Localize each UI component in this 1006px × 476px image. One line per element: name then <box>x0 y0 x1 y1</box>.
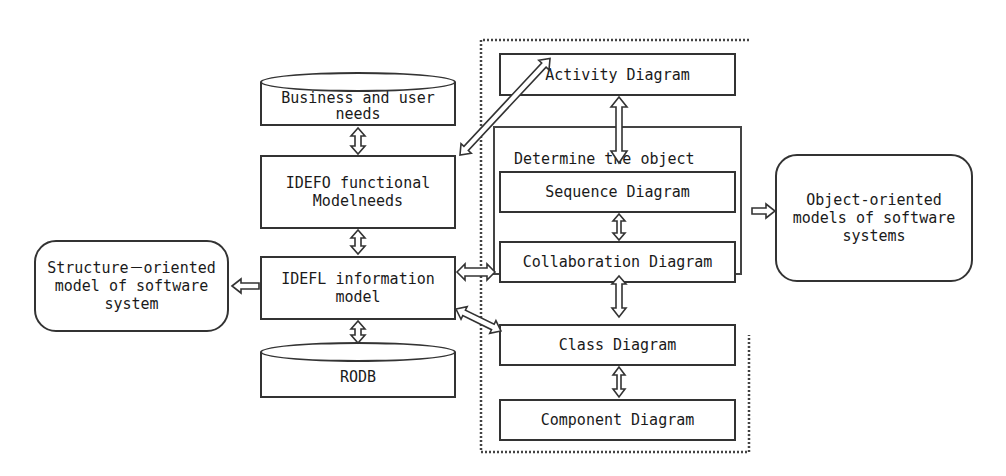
component-diagram: Component Diagram <box>499 399 736 441</box>
object-oriented-model: Object-oriented models of software syste… <box>775 154 973 282</box>
cylinder-top <box>260 342 456 362</box>
double-arrow-icon <box>351 230 365 254</box>
class-diagram: Class Diagram <box>499 324 736 366</box>
double-arrow-icon <box>457 264 495 280</box>
double-arrow-icon <box>613 367 625 397</box>
structure-oriented-model: Structure－oriented model of software sys… <box>34 240 229 332</box>
idef1-information-model: IDEFL information model <box>260 256 456 320</box>
arrow-right-icon <box>752 204 775 218</box>
activity-diagram: Activity Diagram <box>499 53 736 96</box>
double-arrow-icon <box>351 128 365 154</box>
double-arrow-icon <box>453 303 504 338</box>
sequence-diagram: Sequence Diagram <box>499 171 736 213</box>
collaboration-diagram: Collaboration Diagram <box>499 241 736 283</box>
rodb-datastore: RODB <box>260 342 456 398</box>
arrow-left-icon <box>232 279 259 293</box>
cylinder-top <box>260 72 456 92</box>
business-needs-datastore: Business and user needs <box>260 72 456 126</box>
idef0-functional-model: IDEFO functional Modelneeds <box>260 155 456 229</box>
determine-object-label: Determine the object <box>514 150 695 168</box>
double-arrow-icon <box>351 321 365 343</box>
